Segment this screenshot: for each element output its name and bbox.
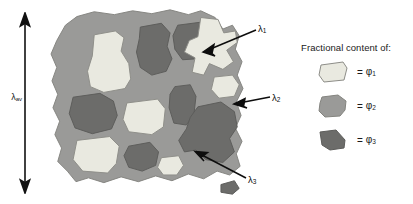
composite-microstructure-figure: λav λ1 λ2 λ3 Fractional content of: xyxy=(0,0,413,204)
microstructure-body xyxy=(40,6,255,198)
scale-bar-arrowhead-bottom xyxy=(20,180,29,193)
legend-swatch-phi1 xyxy=(316,59,350,85)
legend: Fractional content of: = φ1 = φ2 xyxy=(283,42,409,155)
scale-bar-arrowhead-top xyxy=(20,13,29,26)
legend-equals-phi2: = xyxy=(357,101,363,112)
phase3-inclusion-bottom-center xyxy=(124,142,159,171)
scale-bar-label-subscript: av xyxy=(16,96,22,102)
phase1-inclusion-bottom-left xyxy=(73,137,119,173)
legend-row-phi3: = φ3 xyxy=(283,125,409,155)
phase3-inclusion-mid-left xyxy=(69,93,117,133)
legend-swatch-phi3 xyxy=(316,127,350,153)
callout-lambda-3: λ3 xyxy=(248,175,256,186)
callout-lambda-3-subscript: 3 xyxy=(253,178,257,185)
legend-symbol-phi2: φ2 xyxy=(366,100,376,111)
phase1-inclusion-mid-center xyxy=(123,99,165,135)
legend-equals-phi1: = xyxy=(357,67,363,78)
legend-title: Fractional content of: xyxy=(283,42,409,53)
callout-lambda-1: λ1 xyxy=(258,24,266,35)
legend-swatch-phi2 xyxy=(316,93,350,119)
callout-lambda-2-subscript: 2 xyxy=(277,96,281,103)
scale-bar-label: λav xyxy=(0,93,22,102)
scale-bar-lambda-av xyxy=(12,12,38,194)
phase1-inclusion-right-edge xyxy=(211,75,239,98)
callout-lambda-1-subscript: 1 xyxy=(263,27,267,34)
legend-symbol-phi1: φ1 xyxy=(366,66,376,77)
phase3-inclusion-top-mid-left xyxy=(136,23,172,75)
legend-equals-phi3: = xyxy=(357,135,363,146)
legend-symbol-phi3: φ3 xyxy=(366,134,376,145)
legend-row-phi1: = φ1 xyxy=(283,57,409,87)
callout-lambda-2: λ2 xyxy=(272,93,280,104)
phase3-inclusion-far-right-small xyxy=(221,181,239,194)
legend-row-phi2: = φ2 xyxy=(283,91,409,121)
